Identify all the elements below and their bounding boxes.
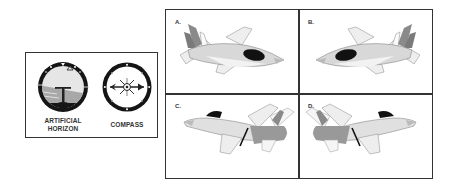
compass-label: COMPASS [100, 121, 154, 129]
compass-icon [101, 61, 153, 113]
label-line-1: ARTIFICIAL [36, 117, 90, 125]
jet-b-icon [299, 10, 434, 93]
artificial-horizon-icon [37, 61, 89, 113]
option-d[interactable]: D. [299, 94, 434, 180]
answer-options-grid: A. B. [165, 9, 433, 179]
artificial-horizon-label: ARTIFICIAL HORIZON [36, 117, 90, 132]
option-a[interactable]: A. [166, 10, 298, 93]
instrument-panel: ARTIFICIAL HORIZON COMPASS [25, 52, 158, 138]
option-b[interactable]: B. [299, 10, 434, 93]
compass: COMPASS [100, 61, 154, 129]
jet-a-icon [166, 10, 298, 93]
option-c[interactable]: C. [166, 94, 298, 180]
jet-c-icon [166, 94, 298, 180]
artificial-horizon: ARTIFICIAL HORIZON [36, 61, 90, 132]
label-line-2: HORIZON [36, 125, 90, 133]
jet-d-icon [299, 94, 434, 180]
